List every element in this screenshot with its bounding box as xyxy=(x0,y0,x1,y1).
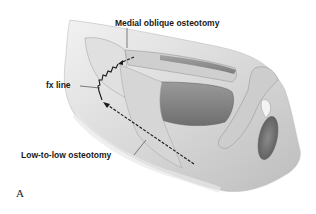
label-fx-line: fx line xyxy=(46,81,71,90)
label-medial-oblique-osteotomy: Medial oblique osteotomy xyxy=(115,19,219,28)
panel-letter: A xyxy=(16,188,24,199)
nasal-osteotomy-illustration: Medial oblique osteotomy fx line Low-to-… xyxy=(0,0,316,214)
upper-lateral-cartilage xyxy=(157,82,233,126)
label-low-to-low-osteotomy: Low-to-low osteotomy xyxy=(21,151,111,160)
